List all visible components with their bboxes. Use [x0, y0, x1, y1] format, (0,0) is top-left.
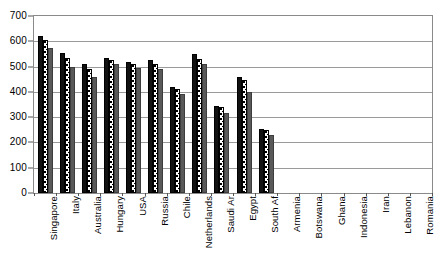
x-axis-tick-label: Armenia — [292, 196, 302, 232]
bar — [136, 68, 141, 193]
bar-group — [410, 16, 432, 193]
x-axis-tick-label: Saudi Ar — [226, 196, 236, 233]
bar — [247, 92, 252, 193]
y-axis-tick-label: 100 — [10, 163, 27, 173]
bars-layer — [34, 16, 432, 193]
x-axis-tick-mark — [78, 193, 79, 196]
x-axis-tick-label: Chile — [182, 196, 192, 218]
bar-group — [34, 16, 56, 193]
x-axis-tick-mark — [432, 193, 433, 196]
y-axis-tick-mark — [28, 91, 33, 92]
x-axis-tick-mark — [211, 193, 212, 196]
bar — [70, 67, 75, 193]
x-axis-tick-mark — [34, 193, 35, 196]
bar-group — [167, 16, 189, 193]
bar-group — [299, 16, 321, 193]
x-axis-tick-mark — [388, 193, 389, 196]
bar-group — [321, 16, 343, 193]
x-axis-tick-label: Australia — [93, 196, 103, 234]
y-axis-tick-mark — [28, 142, 33, 143]
x-axis-tick-label: Botswana — [314, 196, 324, 239]
x-axis-tick-label: USA — [138, 196, 148, 216]
bar-group — [366, 16, 388, 193]
bar — [92, 77, 97, 193]
y-axis-tick-label: 200 — [10, 137, 27, 147]
x-axis-tick-mark — [145, 193, 146, 196]
x-axis-tick-label: Indonesia — [359, 196, 369, 238]
x-axis-tick-label: Egypt — [248, 196, 258, 221]
x-axis-tick-mark — [366, 193, 367, 196]
bar-group — [255, 16, 277, 193]
x-axis-tick-mark — [321, 193, 322, 196]
y-axis-tick-label: 700 — [10, 11, 27, 21]
bar-group — [344, 16, 366, 193]
x-axis-tick-mark — [122, 193, 123, 196]
bar-group — [388, 16, 410, 193]
bar-group — [233, 16, 255, 193]
bar-group — [145, 16, 167, 193]
x-axis-tick-mark — [277, 193, 278, 196]
y-axis-tick-label: 500 — [10, 62, 27, 72]
x-axis-tick-label: Hungary — [115, 196, 125, 233]
bar-group — [78, 16, 100, 193]
x-axis-tick-label: Romania — [425, 196, 435, 235]
x-axis-tick-mark — [189, 193, 190, 196]
x-axis-tick-label: South Af — [270, 196, 280, 233]
bar — [48, 48, 53, 193]
y-axis-tick-mark — [28, 41, 33, 42]
x-axis-tick-label: Netherlands — [204, 196, 214, 248]
bar — [202, 64, 207, 193]
bar-chart: 0100200300400500600700 SingaporeItalyAus… — [0, 0, 443, 264]
x-axis-tick-mark — [299, 193, 300, 196]
bar — [158, 69, 163, 193]
bar — [180, 94, 185, 193]
x-axis-tick-mark — [344, 193, 345, 196]
x-axis-tick-label: Lebanon — [403, 196, 413, 234]
y-axis-tick-label: 300 — [10, 112, 27, 122]
bar — [224, 113, 229, 193]
x-axis-tick-label: Italy — [71, 196, 81, 214]
x-axis-tick-label: Singapore — [49, 196, 59, 240]
x-axis-tick-mark — [255, 193, 256, 196]
x-axis-tick-mark — [233, 193, 234, 196]
bar-group — [122, 16, 144, 193]
x-axis-tick-mark — [100, 193, 101, 196]
bar-group — [100, 16, 122, 193]
y-axis-tick-mark — [28, 16, 33, 17]
bar-group — [56, 16, 78, 193]
x-axis-tick-mark — [410, 193, 411, 196]
bar-group — [211, 16, 233, 193]
y-axis-tick-label: 0 — [21, 188, 27, 198]
x-axis-tick-mark — [167, 193, 168, 196]
x-axis-tick-label: Ghana — [337, 196, 347, 225]
bar-group — [277, 16, 299, 193]
y-axis-tick-label: 600 — [10, 36, 27, 46]
y-axis-tick-mark — [28, 193, 33, 194]
y-axis-tick-mark — [28, 167, 33, 168]
x-axis-tick-label: Russia — [160, 196, 170, 226]
x-axis-tick-label: Iran — [381, 196, 391, 213]
y-axis-tick-mark — [28, 66, 33, 67]
bar-group — [189, 16, 211, 193]
x-axis-labels: SingaporeItalyAustraliaHungaryUSARussiaC… — [34, 196, 432, 264]
bar — [269, 135, 274, 193]
bar — [114, 64, 119, 193]
y-axis: 0100200300400500600700 — [0, 15, 33, 195]
x-axis-tick-mark — [56, 193, 57, 196]
y-axis-tick-mark — [28, 117, 33, 118]
y-axis-tick-label: 400 — [10, 87, 27, 97]
